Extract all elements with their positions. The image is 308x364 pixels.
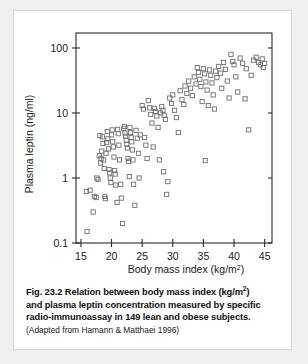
y-axis-title: Plasma leptin (ng/ml) [23,95,35,194]
data-point-marker [137,176,141,180]
data-point-marker [210,81,214,85]
data-point-marker [203,72,207,76]
data-point-marker [91,210,95,214]
y-tick-label: 10 [56,107,68,119]
data-point-marker [261,65,265,69]
data-point-marker [116,127,120,131]
x-tick-label: 35 [198,250,210,262]
data-point-marker [194,82,198,86]
data-point-marker [116,132,120,136]
data-point-marker [183,84,187,88]
data-point-marker [178,89,182,93]
data-point-marker [169,101,173,105]
data-point-marker [206,103,210,107]
data-point-marker [200,99,204,103]
data-point-marker [241,61,245,65]
data-point-marker [244,67,248,71]
data-point-marker [150,121,154,125]
data-point-marker [229,52,233,56]
data-point-marker [104,151,108,155]
data-point-marker [180,98,184,102]
data-point-marker [127,175,131,179]
data-point-marker [225,79,229,83]
data-point-marker [247,128,251,132]
data-point-marker [165,192,169,196]
data-point-marker [212,107,216,111]
data-point-marker [196,70,200,74]
data-point-marker [195,65,199,69]
y-tick-label: 0.1 [53,237,68,249]
caption-source-note: (Adapted from Hamann & Matthaei 1996) [26,324,278,336]
data-point-marker [187,79,191,83]
x-tick-label: 30 [167,250,179,262]
data-point-marker [134,128,138,132]
data-point-marker [173,108,177,112]
data-point-marker [119,196,123,200]
figure-caption: Fig. 23.2 Relation between body mass ind… [26,283,278,337]
data-point-marker [215,76,219,80]
data-point-marker [117,143,121,147]
data-point-marker [128,125,132,129]
data-point-marker [111,145,115,149]
data-point-marker [95,176,99,180]
data-point-marker [185,91,189,95]
scatter-plot-figure: 0.1110100 15202530354045 Plasma leptin (… [14,11,291,279]
data-point-marker [209,73,213,77]
caption-superscript-tail: ) [246,287,249,297]
data-point-marker [156,125,160,129]
data-point-marker [143,135,147,139]
x-axis-tick-labels: 15202530354045 [75,250,271,262]
data-point-marker [100,149,104,153]
data-point-marker [131,182,135,186]
data-point-marker [130,148,134,152]
data-point-marker [102,166,106,170]
data-point-marker [112,155,116,159]
data-point-marker [234,75,238,79]
data-point-marker [188,86,192,90]
data-point-marker [114,183,118,187]
x-tick-label: 45 [259,250,271,262]
data-point-marker [223,67,227,71]
data-point-marker [105,129,109,133]
x-tick-label: 20 [106,250,118,262]
figure-card: 0.1110100 15202530354045 Plasma leptin (… [13,10,292,350]
data-point-marker [236,90,240,94]
data-point-marker [207,68,211,72]
data-point-marker [147,106,151,110]
data-point-marker [222,60,226,64]
data-point-marker [133,203,137,207]
data-point-marker [145,156,149,160]
data-point-marker [198,77,202,81]
data-point-marker [128,130,132,134]
data-point-marker [217,64,221,68]
caption-line-1-text: Fig. 23.2 Relation between body mass ind… [26,287,243,297]
data-point-marker [149,112,153,116]
data-point-marker [131,158,135,162]
data-point-marker [109,180,113,184]
data-point-marker [199,84,203,88]
data-point-marker [220,86,224,90]
data-point-marker [96,177,100,181]
data-point-marker [211,93,215,97]
data-point-marker [106,147,110,151]
data-point-marker [85,229,89,233]
x-tick-label: 25 [136,250,148,262]
data-point-marker [166,180,170,184]
data-point-marker [238,56,242,60]
data-point-marker [249,73,253,77]
data-point-marker [263,61,267,65]
data-point-marker [201,67,205,71]
data-point-marker [146,99,150,103]
data-point-marker [176,130,180,134]
x-tick-label: 40 [228,250,240,262]
data-points [84,52,266,233]
x-tick-label: 15 [75,250,87,262]
data-point-marker [182,102,186,106]
data-point-marker [204,80,208,84]
data-point-marker [227,96,231,100]
x-axis-title: Body mass index (kg/m2) [128,263,245,275]
data-point-marker [174,115,178,119]
data-point-marker [218,71,222,75]
y-tick-label: 1 [62,172,68,184]
x-axis-title-text: Body mass index (kg/m [128,263,237,275]
